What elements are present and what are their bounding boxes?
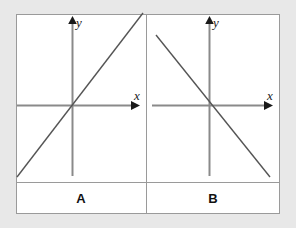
panel-a-x-axis-label: x [133,88,140,103]
panel-b-y-axis-label: y [211,15,219,30]
figure-container: x y A x y B [0,0,296,228]
outer-frame [17,15,280,214]
panel-b-x-axis-label: x [266,88,273,103]
panel-a-y-axis-label: y [74,15,82,30]
panel-b-label: B [208,191,217,206]
panel-a-label: A [76,191,86,206]
two-panel-line-graph-figure: x y A x y B [0,0,296,228]
